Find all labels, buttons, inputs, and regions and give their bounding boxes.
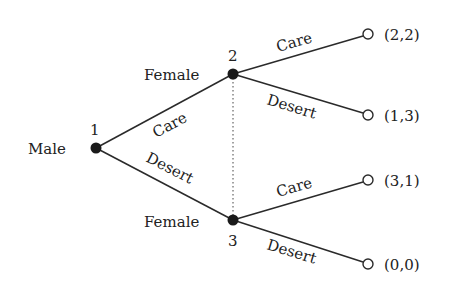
player-label-male: Male — [28, 140, 66, 158]
decision-node-2 — [228, 69, 239, 80]
terminal-node-4 — [363, 259, 373, 269]
payoff-label-4: (0,0) — [384, 256, 420, 274]
payoff-label-1: (2,2) — [384, 26, 420, 44]
edge-label-female3-desert: Desert — [265, 236, 319, 268]
terminal-node-1 — [363, 29, 373, 39]
node-number-2: 2 — [228, 47, 238, 65]
node-number-3: 3 — [228, 232, 238, 250]
edge-label-male-care: Care — [149, 108, 190, 141]
decision-node-1 — [91, 143, 102, 154]
node-number-1: 1 — [90, 121, 100, 139]
game-tree: Male Female Female 1 2 3 Care Desert Car… — [0, 0, 456, 289]
player-label-female-3: Female — [144, 213, 199, 231]
payoff-label-2: (1,3) — [384, 107, 420, 125]
edge-label-male-desert: Desert — [143, 149, 196, 188]
edge-label-female2-desert: Desert — [265, 91, 319, 123]
terminal-node-3 — [363, 175, 373, 185]
decision-node-3 — [228, 215, 239, 226]
terminal-node-2 — [363, 110, 373, 120]
player-label-female-2: Female — [144, 66, 199, 84]
edge-label-female3-care: Care — [274, 173, 314, 200]
payoff-label-3: (3,1) — [384, 172, 420, 190]
